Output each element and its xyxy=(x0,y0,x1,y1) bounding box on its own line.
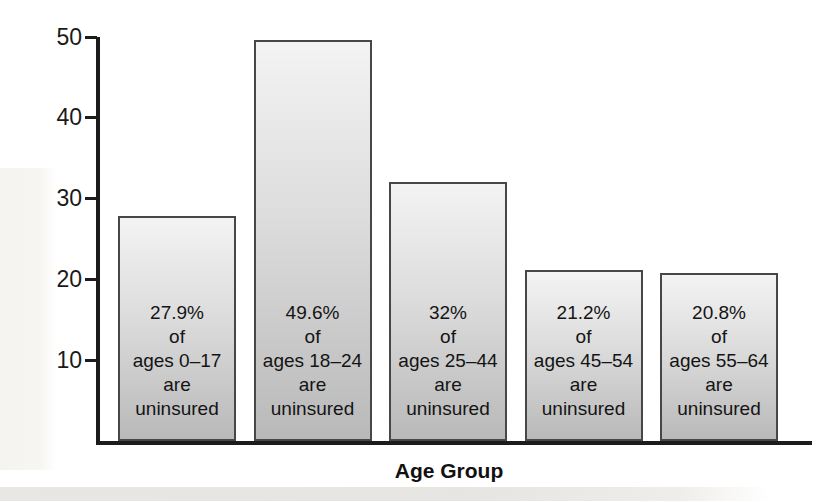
bar-label-line: ages 45–54 xyxy=(527,349,641,373)
bar-label-line: of xyxy=(391,325,505,349)
bar-label-line: ages 0–17 xyxy=(120,349,234,373)
bar-label-line: are xyxy=(120,373,234,397)
left-scan-artifact-band xyxy=(0,168,57,470)
bar-label-line: uninsured xyxy=(256,397,370,421)
bar-label: 21.2%ofages 45–54areuninsured xyxy=(527,301,641,421)
bar-label-line: uninsured xyxy=(662,397,776,421)
bar-label-line: of xyxy=(662,325,776,349)
x-axis-line xyxy=(96,441,812,445)
bar-label: 49.6%ofages 18–24areuninsured xyxy=(256,301,370,421)
bar-label-line: 27.9% xyxy=(120,301,234,325)
bar-label-line: 21.2% xyxy=(527,301,641,325)
y-tick-label: 10 xyxy=(28,349,82,372)
bar-label-line: 20.8% xyxy=(662,301,776,325)
bar-label: 27.9%ofages 0–17areuninsured xyxy=(120,301,234,421)
y-tick-mark xyxy=(85,36,97,39)
bar-label-line: 32% xyxy=(391,301,505,325)
bar-ages 45–54: 21.2%ofages 45–54areuninsured xyxy=(525,270,643,441)
y-tick-label: 20 xyxy=(28,268,82,291)
bar-label-line: are xyxy=(662,373,776,397)
y-tick-mark xyxy=(85,197,97,200)
bar-ages 25–44: 32%ofages 25–44areuninsured xyxy=(389,182,507,441)
bar-ages 55–64: 20.8%ofages 55–64areuninsured xyxy=(660,273,778,441)
bar-label-line: of xyxy=(120,325,234,349)
bar-label-line: ages 18–24 xyxy=(256,349,370,373)
bar-label: 20.8%ofages 55–64areuninsured xyxy=(662,301,776,421)
bar-label-line: 49.6% xyxy=(256,301,370,325)
bar-label-line: are xyxy=(391,373,505,397)
bar-ages 0–17: 27.9%ofages 0–17areuninsured xyxy=(118,216,236,441)
bar-label-line: of xyxy=(256,325,370,349)
bar-label-line: uninsured xyxy=(120,397,234,421)
y-tick-mark xyxy=(85,278,97,281)
y-tick-label: 50 xyxy=(28,26,82,49)
bottom-scan-artifact-band xyxy=(0,487,770,501)
bar-label-line: ages 25–44 xyxy=(391,349,505,373)
bar-label-line: ages 55–64 xyxy=(662,349,776,373)
x-axis-title: Age Group xyxy=(96,459,802,483)
y-tick-mark xyxy=(85,116,97,119)
bar-ages 18–24: 49.6%ofages 18–24areuninsured xyxy=(254,40,372,441)
bar-label-line: are xyxy=(256,373,370,397)
y-tick-label: 30 xyxy=(28,187,82,210)
bar-label-line: uninsured xyxy=(527,397,641,421)
y-tick-mark xyxy=(85,359,97,362)
bar-chart: 1020304050 27.9%ofages 0–17areuninsured4… xyxy=(0,0,825,502)
y-tick-label: 40 xyxy=(28,106,82,129)
bar-label-line: of xyxy=(527,325,641,349)
y-axis-line xyxy=(96,37,100,445)
bar-label: 32%ofages 25–44areuninsured xyxy=(391,301,505,421)
bar-label-line: are xyxy=(527,373,641,397)
bar-label-line: uninsured xyxy=(391,397,505,421)
